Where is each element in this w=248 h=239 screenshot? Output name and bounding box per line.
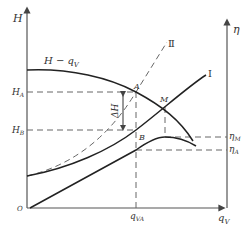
point-m-label: M	[159, 95, 169, 104]
point-b-label: B	[138, 133, 145, 142]
delta-h-label: ΔH	[110, 104, 120, 119]
origin-label: O	[17, 205, 23, 213]
hb-tick-label: HB	[11, 125, 25, 136]
q-axis-label: qV	[218, 212, 230, 226]
pump-characteristic-diagram: H η qV O ΔH H − qV Ⅱ Ⅰ A B M HA HB ηM ηA…	[0, 0, 248, 239]
ha-tick-label: HA	[11, 87, 25, 98]
system-curve-2-label: Ⅱ	[168, 38, 175, 49]
eta-m-tick-label: ηM	[229, 131, 241, 142]
point-a-label: A	[133, 82, 140, 91]
eta-axis-label: η	[233, 23, 240, 36]
h-axis-label: H	[12, 12, 23, 25]
efficiency-curve	[30, 137, 196, 208]
pump-head-curve-label: H − qV	[43, 55, 80, 69]
qva-tick-label: qVA	[130, 211, 145, 222]
eta-a-tick-label: ηA	[229, 144, 239, 155]
system-curve-1-label: Ⅰ	[208, 68, 212, 79]
